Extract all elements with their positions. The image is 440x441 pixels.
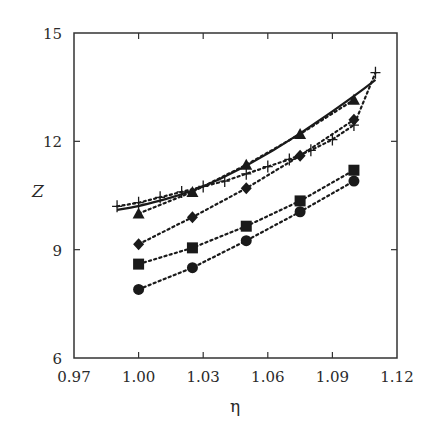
x-axis-label: η: [230, 396, 240, 416]
data-series: [112, 67, 380, 295]
square-marker: [133, 259, 144, 270]
plus-marker: [263, 161, 273, 173]
square-marker: [187, 242, 198, 253]
diamond-marker: [348, 114, 359, 126]
circle-marker: [348, 176, 359, 187]
x-tick-label: 1.06: [251, 368, 284, 386]
plot-frame: [74, 33, 397, 358]
plus-marker: [112, 200, 122, 212]
plus-marker: [370, 67, 380, 79]
x-tick-label: 1.12: [380, 368, 413, 386]
diamond-marker: [187, 211, 198, 223]
diamond-marker: [133, 238, 144, 250]
y-tick-label: 12: [43, 133, 62, 151]
y-tick-label: 15: [43, 25, 62, 43]
x-tick-label: 1.03: [186, 368, 219, 386]
triangle-marker: [133, 208, 145, 219]
square-marker: [348, 165, 359, 176]
chart: 0.971.001.031.061.091.12691215 η Z: [0, 0, 440, 441]
circle-marker: [133, 284, 144, 295]
tick-labels: 0.971.001.031.061.091.12691215: [43, 25, 414, 386]
square-marker: [241, 221, 252, 232]
axes: [74, 33, 397, 358]
diamond-marker: [295, 150, 306, 162]
y-tick-label: 6: [52, 350, 62, 368]
y-axis-label: Z: [31, 181, 45, 201]
y-tick-label: 9: [52, 242, 62, 260]
circle-marker: [295, 206, 306, 217]
x-tick-label: 1.00: [122, 368, 155, 386]
x-tick-label: 0.97: [57, 368, 90, 386]
circle-marker: [241, 235, 252, 246]
circle-marker: [187, 262, 198, 273]
series-square: [133, 165, 359, 270]
diamond-marker: [241, 182, 252, 194]
square-marker: [295, 195, 306, 206]
x-tick-label: 1.09: [316, 368, 349, 386]
